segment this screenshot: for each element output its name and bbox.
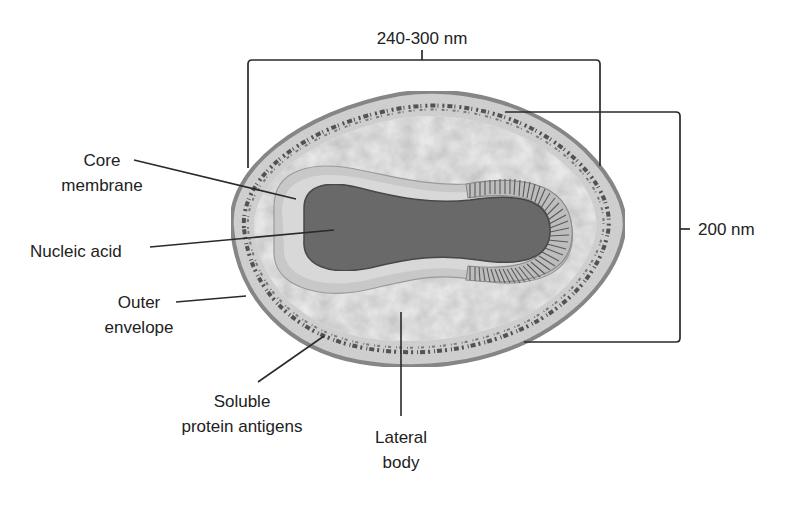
- label-soluble-protein-antigens-line1: Soluble: [214, 392, 271, 411]
- label-outer-envelope-line1: Outer: [118, 293, 161, 312]
- label-core-membrane-line2: membrane: [61, 176, 142, 195]
- callout-outer-envelope: Outer envelope: [104, 293, 246, 337]
- label-outer-envelope-line2: envelope: [104, 318, 173, 337]
- label-lateral-body-line2: body: [383, 453, 420, 472]
- width-label: 240-300 nm: [377, 29, 468, 48]
- label-lateral-body-line1: Lateral: [375, 428, 427, 447]
- height-label: 200 nm: [698, 220, 755, 239]
- label-soluble-protein-antigens-line2: protein antigens: [182, 417, 303, 436]
- virion: [232, 92, 625, 366]
- label-core-membrane-line1: Core: [84, 151, 121, 170]
- label-nucleic-acid: Nucleic acid: [30, 242, 122, 261]
- virion-diagram: 240-300 nm 200 nm Core membrane Nucleic …: [0, 0, 794, 505]
- callout-soluble-protein-antigens: Soluble protein antigens: [182, 336, 324, 436]
- diagram-canvas: 240-300 nm 200 nm Core membrane Nucleic …: [0, 0, 794, 505]
